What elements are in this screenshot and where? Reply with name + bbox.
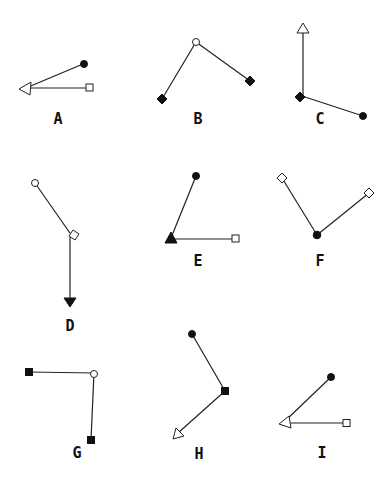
figure-i: I: [279, 374, 350, 463]
figure-label-c: C: [315, 110, 324, 128]
open-circle-icon: [32, 180, 39, 187]
open-triangle-icon: [297, 23, 309, 33]
open-square-icon: [86, 84, 93, 91]
figure-label-d: D: [65, 317, 74, 335]
figure-label-i: I: [317, 444, 326, 462]
figure-h: H: [173, 331, 229, 464]
filled-arrowhead-icon: [64, 298, 76, 307]
figure-label-a: A: [53, 110, 62, 128]
figure-label-b: B: [193, 110, 202, 128]
filled-circle-icon: [81, 61, 88, 68]
filled-square-icon: [222, 388, 229, 395]
figure-label-h: H: [194, 445, 203, 463]
filled-circle-icon: [193, 173, 200, 180]
open-circle-icon: [91, 371, 98, 378]
figure-d: D: [32, 180, 80, 336]
filled-circle-icon: [360, 113, 367, 120]
figure-label-f: F: [315, 252, 324, 270]
filled-square-icon: [26, 369, 33, 376]
open-circle-icon: [193, 39, 200, 46]
filled-diamond-icon: [157, 94, 167, 104]
figure-a: A: [19, 61, 93, 129]
filled-circle-icon: [328, 374, 335, 381]
open-square-icon: [232, 235, 239, 242]
open-triangle-icon: [279, 416, 291, 428]
figure-f: F: [277, 173, 374, 270]
filled-circle-icon: [189, 331, 196, 338]
figure-g: G: [26, 369, 98, 463]
figure-c: C: [295, 23, 367, 128]
figure-grid: A B C D E: [0, 0, 392, 488]
filled-triangle-icon: [165, 232, 177, 243]
figure-label-e: E: [193, 252, 202, 270]
figure-b: B: [157, 39, 255, 129]
figure-label-g: G: [72, 444, 81, 462]
open-diamond-icon: [277, 173, 287, 183]
filled-circle-icon: [313, 231, 321, 239]
figure-e: E: [165, 173, 239, 271]
filled-diamond-icon: [245, 76, 255, 86]
open-triangle-icon: [19, 82, 31, 95]
filled-square-icon: [88, 437, 95, 444]
open-square-icon: [343, 420, 350, 427]
